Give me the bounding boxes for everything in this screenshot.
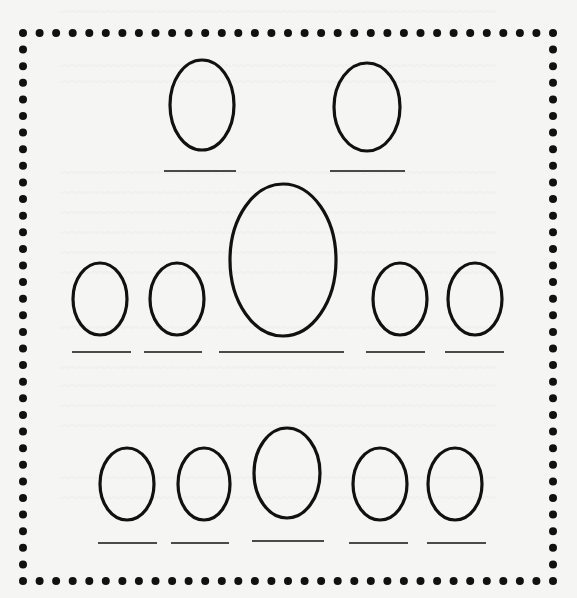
portrait-oval-3-2 — [178, 448, 230, 520]
border-dot — [367, 29, 375, 37]
border-dot — [367, 577, 375, 585]
family-tree-rows — [72, 60, 504, 543]
portrait-oval-1-2 — [334, 63, 400, 151]
border-dot — [284, 29, 292, 37]
border-dot — [334, 29, 342, 37]
portrait-oval-3-4 — [353, 448, 407, 520]
border-dot — [19, 295, 27, 303]
border-dot — [19, 278, 27, 286]
border-dot — [185, 577, 193, 585]
border-dot — [135, 577, 143, 585]
border-dot — [549, 278, 557, 286]
top-row — [164, 60, 405, 171]
border-dot — [19, 345, 27, 353]
border-dot — [549, 328, 557, 336]
border-dot — [549, 228, 557, 236]
family-tree-diagram — [0, 0, 577, 598]
border-dot — [118, 29, 126, 37]
border-dot — [400, 577, 408, 585]
border-dot — [168, 29, 176, 37]
portrait-oval-3-5 — [428, 448, 482, 520]
border-dot — [85, 577, 93, 585]
border-dot — [549, 212, 557, 220]
border-dot — [19, 62, 27, 70]
portrait-oval-2-3 — [230, 184, 336, 336]
border-dot — [549, 361, 557, 369]
border-dot — [19, 461, 27, 469]
border-dot — [19, 494, 27, 502]
border-dot — [267, 577, 275, 585]
border-dot — [549, 195, 557, 203]
border-dot — [350, 577, 358, 585]
border-dot — [466, 577, 474, 585]
border-dot — [19, 444, 27, 452]
border-dot — [549, 527, 557, 535]
border-dot — [52, 29, 60, 37]
portrait-oval-2-5 — [448, 263, 502, 335]
border-dot — [19, 328, 27, 336]
border-dot — [549, 95, 557, 103]
border-dot — [549, 511, 557, 519]
border-dot — [19, 228, 27, 236]
border-dot — [549, 46, 557, 54]
border-dot — [466, 29, 474, 37]
border-dot — [450, 577, 458, 585]
border-dot — [19, 129, 27, 137]
dotted-border — [19, 29, 557, 585]
border-dot — [549, 411, 557, 419]
border-dot — [549, 162, 557, 170]
border-dot — [118, 577, 126, 585]
border-dot — [19, 145, 27, 153]
border-dot — [234, 577, 242, 585]
border-dot — [19, 411, 27, 419]
border-dot — [19, 112, 27, 120]
border-dot — [350, 29, 358, 37]
border-dot — [52, 577, 60, 585]
border-dot — [549, 428, 557, 436]
border-dot — [69, 29, 77, 37]
portrait-oval-2-2 — [150, 263, 204, 335]
border-dot — [549, 444, 557, 452]
border-dot — [69, 577, 77, 585]
border-dot — [19, 560, 27, 568]
border-dot — [19, 378, 27, 386]
border-dot — [201, 577, 209, 585]
border-dot — [383, 577, 391, 585]
border-dot — [19, 95, 27, 103]
border-dot — [317, 29, 325, 37]
border-dot — [417, 577, 425, 585]
border-dot — [284, 577, 292, 585]
border-dot — [334, 577, 342, 585]
border-dot — [549, 179, 557, 187]
border-dot — [516, 29, 524, 37]
border-dot — [19, 361, 27, 369]
border-dot — [19, 394, 27, 402]
border-dot — [218, 577, 226, 585]
border-dot — [516, 577, 524, 585]
border-dot — [19, 577, 27, 585]
border-dot — [19, 212, 27, 220]
border-dot — [102, 29, 110, 37]
border-dot — [36, 577, 44, 585]
bottom-row — [98, 428, 486, 543]
border-dot — [19, 311, 27, 319]
border-dot — [549, 577, 557, 585]
border-dot — [499, 29, 507, 37]
border-dot — [549, 461, 557, 469]
border-dot — [218, 29, 226, 37]
border-dot — [383, 29, 391, 37]
border-dot — [532, 577, 540, 585]
border-dot — [549, 311, 557, 319]
border-dot — [499, 577, 507, 585]
portrait-oval-1-1 — [170, 60, 234, 150]
border-dot — [549, 494, 557, 502]
border-dot — [400, 29, 408, 37]
border-dot — [19, 46, 27, 54]
border-dot — [549, 295, 557, 303]
border-dot — [549, 129, 557, 137]
border-dot — [532, 29, 540, 37]
border-dot — [234, 29, 242, 37]
border-dot — [301, 577, 309, 585]
worksheet-page: ~~~~~~~~~~~~~~~~~~~~~~~~~~~~~~~~~~~~~~~~… — [0, 0, 577, 598]
portrait-oval-3-3 — [254, 428, 320, 518]
